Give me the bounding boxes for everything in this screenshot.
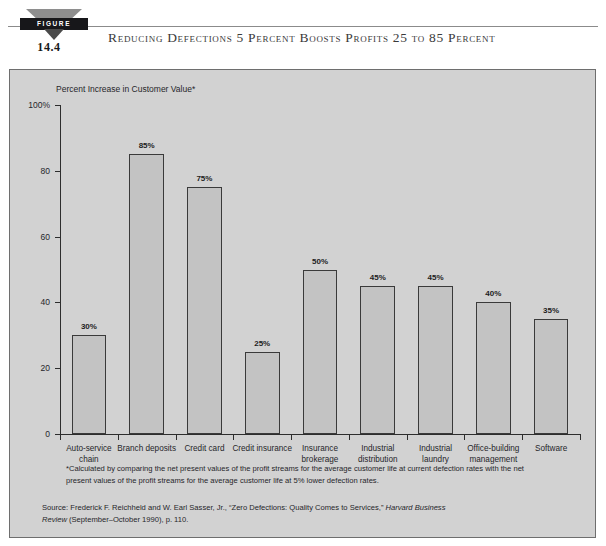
x-category-line: Software bbox=[518, 443, 584, 454]
figure-header: FIGURE 14.4 Reducing Defections 5 Percen… bbox=[0, 0, 606, 62]
y-tick bbox=[55, 237, 61, 238]
bar bbox=[129, 154, 164, 434]
x-tick bbox=[118, 434, 119, 440]
x-category-line: Industrial bbox=[403, 443, 469, 454]
x-category-label: Industrialdistribution bbox=[345, 443, 411, 465]
bar-value-label: 50% bbox=[291, 257, 349, 266]
x-tick bbox=[60, 434, 61, 440]
badge-pointer-icon bbox=[44, 29, 64, 40]
chart-panel: Percent Increase in Customer Value* 0204… bbox=[9, 69, 596, 538]
y-tick-label: 0 bbox=[10, 429, 50, 439]
x-category-label: Credit card bbox=[172, 443, 238, 454]
y-tick bbox=[55, 171, 61, 172]
y-tick bbox=[55, 105, 61, 106]
x-axis-line bbox=[60, 434, 580, 435]
bar-value-label: 75% bbox=[176, 174, 234, 183]
bar bbox=[303, 270, 338, 435]
source-prefix: Source: Frederick F. Reichheld and W. Ea… bbox=[42, 503, 386, 512]
x-category-line: Auto-service bbox=[56, 443, 122, 454]
bar bbox=[418, 286, 453, 434]
header-divider bbox=[8, 26, 598, 27]
y-axis-line bbox=[60, 105, 61, 434]
x-category-line: Office-building bbox=[460, 443, 526, 454]
x-tick bbox=[176, 434, 177, 440]
y-tick-label: 60 bbox=[10, 232, 50, 242]
x-category-label: Auto-servicechain bbox=[56, 443, 122, 465]
bar-value-label: 35% bbox=[522, 306, 580, 315]
y-tick-label: 80 bbox=[10, 166, 50, 176]
x-category-line: Branch deposits bbox=[114, 443, 180, 454]
figure-badge: FIGURE bbox=[20, 9, 90, 39]
y-tick-label: 20 bbox=[10, 363, 50, 373]
x-category-label: Software bbox=[518, 443, 584, 454]
x-category-line: Credit insurance bbox=[229, 443, 295, 454]
x-category-label: Office-buildingmanagement bbox=[460, 443, 526, 465]
y-tick bbox=[55, 368, 61, 369]
bar-value-label: 45% bbox=[407, 273, 465, 282]
x-category-line: Credit card bbox=[172, 443, 238, 454]
x-category-label: Industriallaundry bbox=[403, 443, 469, 465]
bar-value-label: 40% bbox=[464, 289, 522, 298]
bar-value-label: 30% bbox=[60, 322, 118, 331]
bar bbox=[534, 319, 569, 434]
page-title: Reducing Defections 5 Percent Boosts Pro… bbox=[108, 30, 495, 46]
bar bbox=[476, 302, 511, 434]
bar bbox=[360, 286, 395, 434]
bar bbox=[187, 187, 222, 434]
x-category-label: Branch deposits bbox=[114, 443, 180, 454]
bar-value-label: 45% bbox=[349, 273, 407, 282]
x-tick bbox=[349, 434, 350, 440]
x-category-line: Industrial bbox=[345, 443, 411, 454]
y-tick bbox=[55, 302, 61, 303]
x-category-label: Credit insurance bbox=[229, 443, 295, 454]
x-tick bbox=[580, 434, 581, 440]
figure-number: 14.4 bbox=[14, 40, 84, 55]
chart-source: Source: Frederick F. Reichheld and W. Ea… bbox=[42, 502, 472, 525]
x-category-line: Insurance bbox=[287, 443, 353, 454]
x-tick bbox=[522, 434, 523, 440]
bar bbox=[72, 335, 107, 434]
bar-value-label: 85% bbox=[118, 141, 176, 150]
x-tick bbox=[233, 434, 234, 440]
x-category-label: Insurancebrokerage bbox=[287, 443, 353, 465]
x-tick bbox=[407, 434, 408, 440]
x-tick bbox=[291, 434, 292, 440]
source-suffix: (September–October 1990), p. 110. bbox=[67, 515, 188, 524]
x-tick bbox=[464, 434, 465, 440]
bar bbox=[245, 352, 280, 434]
bar-value-label: 25% bbox=[233, 339, 291, 348]
y-tick-label: 40 bbox=[10, 297, 50, 307]
chart-footnote: *Calculated by comparing the net present… bbox=[66, 463, 536, 486]
y-tick-label: 100% bbox=[10, 100, 50, 110]
